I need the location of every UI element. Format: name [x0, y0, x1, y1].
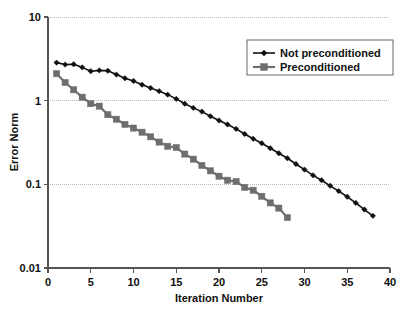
- data-point-marker: [216, 118, 221, 123]
- x-tick-label: 5: [88, 276, 94, 288]
- series-1: [54, 60, 376, 219]
- data-point-marker: [80, 65, 85, 70]
- data-point-marker: [97, 68, 102, 73]
- series-2: [53, 71, 290, 221]
- y-tick-label: 10: [29, 11, 41, 23]
- y-axis-tick-labels: 0.010.1110: [20, 11, 41, 274]
- data-point-marker: [190, 156, 196, 162]
- x-axis-title: Iteration Number: [175, 292, 264, 304]
- data-point-marker: [139, 129, 145, 135]
- y-axis-title: Error Norm: [8, 112, 20, 171]
- data-point-marker: [71, 87, 77, 93]
- data-point-marker: [62, 79, 68, 85]
- data-point-marker: [267, 200, 273, 206]
- y-tick-label: 0.1: [26, 178, 41, 190]
- series-line: [57, 63, 373, 216]
- data-point-marker: [54, 60, 59, 65]
- data-point-marker: [53, 71, 59, 77]
- x-tick-label: 25: [256, 276, 268, 288]
- data-point-marker: [113, 116, 119, 122]
- data-point-marker: [130, 125, 136, 131]
- data-point-marker: [216, 173, 222, 179]
- y-tick-label: 0.01: [20, 262, 41, 274]
- data-point-marker: [139, 82, 144, 87]
- data-point-marker: [242, 184, 248, 190]
- data-point-marker: [182, 151, 188, 157]
- chart-legend: Not preconditionedPreconditioned: [247, 40, 393, 75]
- data-point-marker: [191, 105, 196, 110]
- data-point-marker: [105, 112, 111, 118]
- chart-figure: 0.010.1110 0510152025303540 Iteration Nu…: [0, 0, 407, 314]
- x-tick-label: 30: [298, 276, 310, 288]
- data-point-marker: [259, 193, 265, 199]
- data-point-marker: [199, 162, 205, 168]
- legend-label: Preconditioned: [280, 61, 360, 73]
- x-tick-label: 0: [45, 276, 51, 288]
- data-point-marker: [148, 85, 153, 90]
- series-line: [57, 74, 288, 218]
- data-point-marker: [114, 72, 119, 77]
- x-tick-label: 40: [384, 276, 396, 288]
- data-point-marker: [79, 94, 85, 100]
- data-point-marker: [88, 101, 94, 107]
- data-point-marker: [71, 62, 76, 67]
- x-axis-tick-labels: 0510152025303540: [45, 276, 396, 288]
- data-point-marker: [276, 205, 282, 211]
- data-point-marker: [156, 88, 161, 93]
- data-point-marker: [173, 144, 179, 150]
- data-point-marker: [122, 121, 128, 127]
- data-point-marker: [88, 69, 93, 74]
- data-point-marker: [165, 92, 170, 97]
- data-point-marker: [165, 143, 171, 149]
- data-point-marker: [284, 215, 290, 221]
- data-point-marker: [207, 168, 213, 174]
- y-tick-label: 1: [35, 95, 41, 107]
- data-point-marker: [250, 187, 256, 193]
- error-norm-convergence-chart: 0.010.1110 0510152025303540 Iteration Nu…: [0, 0, 407, 314]
- data-point-marker: [62, 62, 67, 67]
- data-point-marker: [148, 134, 154, 140]
- data-point-marker: [96, 103, 102, 109]
- x-tick-label: 15: [170, 276, 182, 288]
- data-series-layer: [53, 60, 375, 221]
- data-point-marker: [233, 178, 239, 184]
- data-point-marker: [105, 68, 110, 73]
- data-point-marker: [122, 76, 127, 81]
- data-point-marker: [224, 177, 230, 183]
- x-tick-label: 35: [341, 276, 353, 288]
- data-point-marker: [131, 78, 136, 83]
- x-tick-label: 20: [213, 276, 225, 288]
- data-point-marker: [261, 64, 268, 71]
- data-point-marker: [156, 139, 162, 145]
- x-tick-label: 10: [127, 276, 139, 288]
- legend-label: Not preconditioned: [280, 47, 381, 59]
- data-point-marker: [225, 122, 230, 127]
